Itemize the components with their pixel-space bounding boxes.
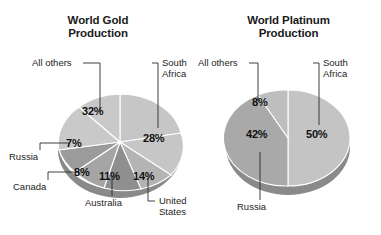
label-united-states-gold: United States: [159, 196, 186, 217]
pie-chart-figure: World Gold Production: [0, 0, 381, 235]
pct-united-states-gold: 14%: [133, 170, 154, 182]
label-russia-platinum: Russia: [237, 202, 266, 213]
pct-canada-gold: 8%: [74, 166, 90, 178]
label-south-africa-gold-line1: South: [162, 58, 187, 69]
label-united-states-gold-line2: States: [159, 207, 186, 218]
pie-platinum-slices: [223, 90, 350, 186]
pct-russia-gold: 7%: [66, 137, 82, 149]
label-south-africa-platinum-line1: South: [323, 58, 348, 69]
label-united-states-gold-line1: United: [159, 196, 186, 207]
label-all-others-platinum: All others: [198, 58, 238, 69]
pie-platinum-svg: [196, 0, 381, 235]
label-south-africa-platinum-line2: Africa: [323, 69, 348, 80]
pct-russia-platinum: 42%: [246, 128, 267, 140]
pct-all-others-gold: 32%: [82, 105, 103, 117]
label-south-africa-platinum: South Africa: [323, 58, 348, 79]
label-south-africa-gold: South Africa: [162, 58, 187, 79]
label-south-africa-gold-line2: Africa: [162, 69, 187, 80]
label-all-others-gold: All others: [32, 58, 72, 69]
chart-panel-world-platinum-production: World Platinum Production: [196, 0, 381, 235]
label-canada-gold: Canada: [13, 182, 46, 193]
label-australia-gold: Australia: [85, 198, 122, 209]
pct-australia-gold: 11%: [99, 170, 120, 182]
pct-south-africa-gold: 28%: [143, 132, 164, 144]
label-russia-gold: Russia: [9, 152, 38, 163]
pct-all-others-platinum: 8%: [252, 96, 268, 108]
pct-south-africa-platinum: 50%: [306, 128, 327, 140]
chart-panel-world-gold-production: World Gold Production: [0, 0, 196, 235]
